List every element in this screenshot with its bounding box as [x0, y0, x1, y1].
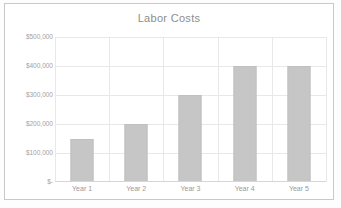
bar[interactable] — [125, 124, 148, 182]
x-axis: Year 1Year 2Year 3Year 4Year 5 — [55, 185, 326, 199]
category-axis-line — [55, 181, 326, 182]
bar-slot — [55, 37, 109, 182]
bars-layer — [55, 37, 326, 182]
x-tick-label: Year 4 — [218, 185, 272, 192]
screenshot-root: Labor Costs $-$100,000$200,000$300,000$4… — [0, 0, 341, 208]
chart-title: Labor Costs — [5, 12, 333, 24]
x-tick-label: Year 3 — [163, 185, 217, 192]
plot-area — [55, 37, 326, 182]
bar[interactable] — [71, 139, 94, 183]
bar-slot — [218, 37, 272, 182]
x-tick-label: Year 5 — [272, 185, 326, 192]
x-tick-label: Year 1 — [55, 185, 109, 192]
bar[interactable] — [233, 66, 256, 182]
y-tick-label: $200,000 — [26, 120, 53, 127]
y-tick-label: $500,000 — [26, 33, 53, 40]
y-tick-label: $100,000 — [26, 149, 53, 156]
bar-slot — [272, 37, 326, 182]
bar-slot — [163, 37, 217, 182]
y-tick-label: $- — [47, 178, 53, 185]
bar[interactable] — [287, 66, 310, 182]
x-tick-label: Year 2 — [109, 185, 163, 192]
y-tick-label: $400,000 — [26, 62, 53, 69]
y-tick-label: $300,000 — [26, 91, 53, 98]
bar[interactable] — [179, 95, 202, 182]
bar-slot — [109, 37, 163, 182]
chart-frame[interactable]: Labor Costs $-$100,000$200,000$300,000$4… — [4, 3, 334, 200]
y-axis: $-$100,000$200,000$300,000$400,000$500,0… — [9, 4, 53, 199]
gridline-vertical — [326, 37, 327, 182]
